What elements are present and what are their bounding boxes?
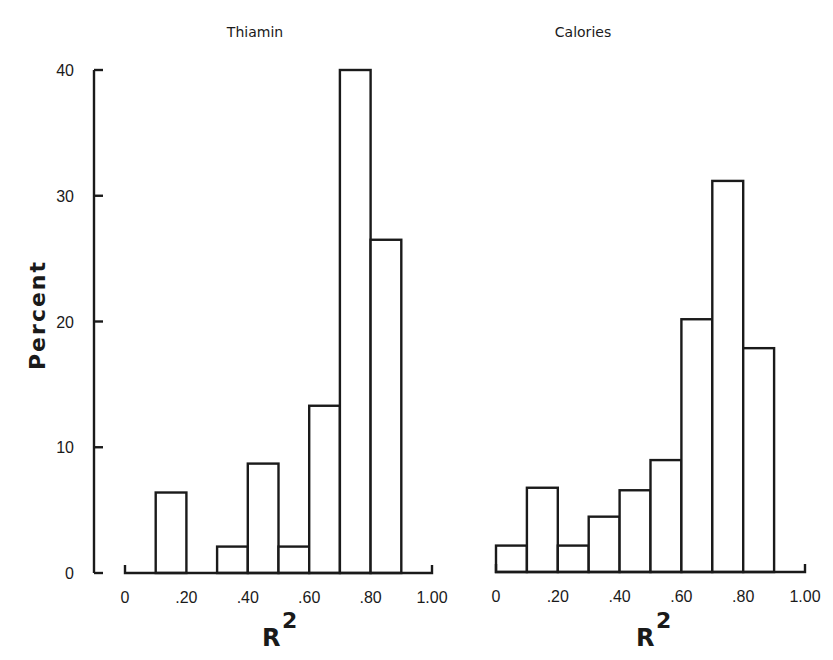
y-tick-label: 30	[56, 188, 74, 205]
histogram-bar	[651, 460, 682, 572]
x-tick-label: .60	[670, 588, 692, 605]
calories-bars	[496, 181, 774, 572]
x-tick-label: .40	[608, 588, 630, 605]
x-tick-label: .40	[237, 589, 259, 606]
histogram-bar	[681, 319, 712, 572]
x-axis-label-r: R	[262, 624, 280, 652]
x-tick-label: .60	[298, 589, 320, 606]
thiamin-histogram-panel: Thiamin 010203040 0.20.40.60.801.00 R 2	[56, 24, 447, 652]
x-tick-label: .80	[359, 589, 381, 606]
histogram-bar	[340, 70, 371, 573]
thiamin-y-axis: 010203040	[56, 62, 103, 582]
x-axis-label-r: R	[636, 624, 654, 652]
thiamin-chart-title: Thiamin	[226, 24, 283, 40]
y-axis-label: Percent	[25, 260, 50, 370]
x-tick-label: 1.00	[416, 589, 447, 606]
y-tick-label: 40	[56, 62, 74, 79]
histogram-bar	[558, 546, 589, 572]
histogram-bar	[309, 406, 340, 573]
x-axis-label-superscript: 2	[282, 608, 297, 633]
histogram-bar	[371, 240, 402, 573]
histogram-bar	[589, 517, 620, 572]
calories-x-axis-label: R 2	[636, 608, 671, 652]
x-tick-label: 0	[121, 589, 130, 606]
histogram-bar	[496, 546, 527, 572]
histogram-bar	[743, 348, 774, 572]
x-tick-label: 1.00	[789, 588, 820, 605]
histogram-bar	[620, 490, 651, 572]
x-tick-label: .20	[175, 589, 197, 606]
x-tick-label: .20	[547, 588, 569, 605]
y-tick-label: 10	[56, 439, 74, 456]
histogram-bar	[156, 493, 187, 573]
thiamin-bars	[156, 70, 402, 573]
y-tick-label: 20	[56, 314, 74, 331]
histogram-bar	[527, 488, 558, 572]
histogram-bar	[279, 547, 310, 573]
histogram-bar	[217, 547, 248, 573]
calories-histogram-panel: Calories 0.20.40.60.801.00 R 2	[492, 24, 821, 652]
y-tick-label: 0	[65, 565, 74, 582]
histogram-figure: Percent Thiamin 010203040 0.20.40.60.801…	[0, 0, 833, 660]
thiamin-x-axis-label: R 2	[262, 608, 297, 652]
histogram-bar	[248, 464, 279, 573]
x-axis-label-superscript: 2	[656, 608, 671, 633]
calories-chart-title: Calories	[555, 24, 611, 40]
x-tick-label: .80	[732, 588, 754, 605]
x-tick-label: 0	[492, 588, 501, 605]
histogram-bar	[712, 181, 743, 572]
